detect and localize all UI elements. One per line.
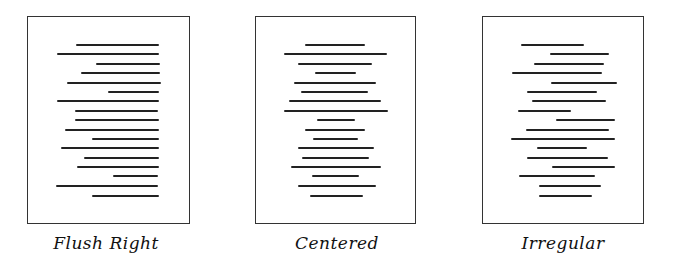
text-line bbox=[534, 63, 604, 65]
text-line bbox=[521, 44, 584, 46]
text-line bbox=[512, 72, 602, 74]
text-line bbox=[67, 82, 161, 84]
text-line bbox=[305, 44, 365, 46]
text-line bbox=[527, 91, 597, 93]
text-line bbox=[527, 157, 608, 159]
text-line bbox=[537, 147, 587, 149]
text-line bbox=[77, 166, 159, 168]
text-line bbox=[302, 157, 369, 159]
text-line bbox=[294, 82, 376, 84]
text-line bbox=[284, 53, 387, 55]
text-line bbox=[92, 195, 159, 197]
text-line bbox=[298, 147, 374, 149]
text-line bbox=[75, 110, 158, 112]
text-line bbox=[552, 166, 615, 168]
text-line bbox=[289, 100, 381, 102]
text-line bbox=[539, 195, 592, 197]
text-line bbox=[556, 119, 615, 121]
text-line bbox=[312, 175, 359, 177]
caption-flush-right: Flush Right bbox=[6, 233, 206, 253]
text-line bbox=[305, 129, 365, 131]
text-line bbox=[518, 110, 571, 112]
text-line bbox=[526, 129, 609, 131]
text-line bbox=[61, 147, 159, 149]
text-line bbox=[84, 157, 159, 159]
text-line bbox=[315, 72, 356, 74]
text-line bbox=[284, 110, 388, 112]
text-line bbox=[65, 129, 159, 131]
caption-centered: Centered bbox=[237, 233, 437, 253]
text-line bbox=[550, 53, 609, 55]
text-line bbox=[511, 138, 615, 140]
text-line bbox=[76, 44, 159, 46]
text-line bbox=[92, 138, 159, 140]
text-line bbox=[291, 166, 381, 168]
text-line bbox=[57, 53, 159, 55]
text-line bbox=[298, 185, 376, 187]
text-line bbox=[310, 195, 363, 197]
text-line bbox=[539, 185, 601, 187]
text-line bbox=[56, 185, 158, 187]
text-line bbox=[298, 63, 372, 65]
text-line bbox=[317, 119, 355, 121]
caption-irregular: Irregular bbox=[463, 233, 663, 253]
text-line bbox=[75, 119, 159, 121]
text-line bbox=[108, 91, 159, 93]
text-line bbox=[532, 100, 606, 102]
text-line bbox=[81, 72, 160, 74]
text-line bbox=[313, 138, 358, 140]
text-line bbox=[301, 91, 368, 93]
text-line bbox=[96, 63, 160, 65]
text-line bbox=[113, 175, 158, 177]
text-line bbox=[551, 82, 617, 84]
text-line bbox=[519, 175, 595, 177]
text-line bbox=[57, 100, 159, 102]
